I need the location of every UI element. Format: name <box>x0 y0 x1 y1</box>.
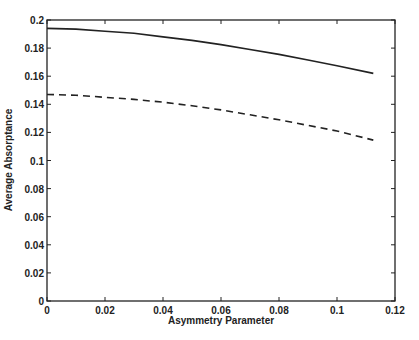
x-tick-label: 0.1 <box>330 305 344 316</box>
y-tick-label: 0.04 <box>25 240 45 251</box>
y-tick-label: 0.18 <box>25 43 45 54</box>
data-series <box>47 28 373 140</box>
y-tick-label: 0.14 <box>25 99 45 110</box>
axis-ticks: 00.020.040.060.080.10.1200.020.040.060.0… <box>25 15 406 316</box>
series-line-dashed <box>47 95 373 141</box>
y-tick-label: 0.1 <box>30 156 44 167</box>
line-chart: 00.020.040.060.080.10.1200.020.040.060.0… <box>0 0 419 340</box>
x-tick-label: 0 <box>44 305 50 316</box>
y-tick-label: 0.12 <box>25 127 45 138</box>
plot-frame <box>47 20 395 301</box>
y-tick-label: 0.06 <box>25 212 45 223</box>
x-tick-label: 0.12 <box>385 305 405 316</box>
y-tick-label: 0 <box>38 296 44 307</box>
y-tick-label: 0.2 <box>30 15 44 26</box>
x-axis-label: Asymmetry Parameter <box>168 315 274 326</box>
series-line-solid <box>47 28 373 73</box>
y-tick-label: 0.16 <box>25 71 45 82</box>
y-axis-label: Average Absorptance <box>3 108 14 211</box>
x-tick-label: 0.02 <box>95 305 115 316</box>
y-tick-label: 0.08 <box>25 184 45 195</box>
y-tick-label: 0.02 <box>25 268 45 279</box>
